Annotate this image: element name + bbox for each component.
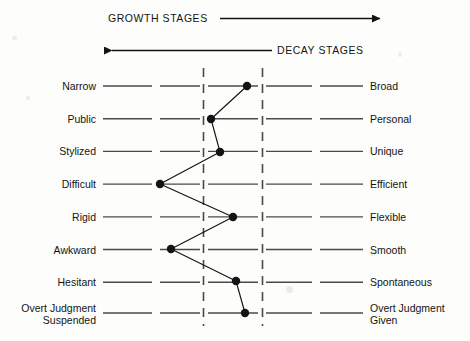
pole-label-line1: Overt Judgment bbox=[21, 302, 96, 314]
pole-label-line1: Hesitant bbox=[57, 276, 96, 288]
pole-label-line1: Awkward bbox=[54, 244, 96, 256]
pole-label-line1: Flexible bbox=[370, 211, 406, 223]
pole-label-line1: Spontaneous bbox=[370, 276, 432, 288]
pole-label-left-7: Overt JudgmentSuspended bbox=[6, 302, 96, 326]
pole-label-line1: Rigid bbox=[72, 211, 96, 223]
pole-label-left-6: Hesitant bbox=[6, 276, 96, 288]
pole-label-right-5: Smooth bbox=[370, 244, 468, 256]
pole-label-line1: Public bbox=[67, 113, 96, 125]
pole-label-line2: Given bbox=[370, 314, 397, 326]
pole-label-line1: Broad bbox=[370, 80, 398, 92]
scan-speck bbox=[286, 286, 293, 293]
pole-label-left-5: Awkward bbox=[6, 244, 96, 256]
pole-label-right-2: Unique bbox=[370, 145, 468, 157]
pole-label-left-2: Stylized bbox=[6, 145, 96, 157]
pole-label-left-3: Difficult bbox=[6, 178, 96, 190]
pole-label-line1: Stylized bbox=[59, 145, 96, 157]
pole-label-left-4: Rigid bbox=[6, 211, 96, 223]
pole-label-line1: Difficult bbox=[62, 178, 96, 190]
pole-label-line1: Efficient bbox=[370, 178, 407, 190]
pole-label-right-6: Spontaneous bbox=[370, 276, 468, 288]
pole-label-line2: Suspended bbox=[43, 314, 96, 326]
pole-label-left-0: Narrow bbox=[6, 80, 96, 92]
pole-label-right-4: Flexible bbox=[370, 211, 468, 223]
growth-stages-label: GROWTH STAGES bbox=[108, 12, 208, 24]
pole-label-right-1: Personal bbox=[370, 113, 468, 125]
pole-label-line1: Unique bbox=[370, 145, 403, 157]
pole-label-right-3: Efficient bbox=[370, 178, 468, 190]
decay-stages-label: DECAY STAGES bbox=[277, 44, 364, 56]
pole-label-line1: Smooth bbox=[370, 244, 406, 256]
chart-canvas: GROWTH STAGES DECAY STAGES NarrowPublicS… bbox=[0, 0, 470, 341]
pole-label-line1: Overt Judgment bbox=[370, 302, 445, 314]
scan-speck bbox=[26, 96, 30, 100]
pole-label-line1: Narrow bbox=[62, 80, 96, 92]
pole-label-right-7: Overt JudgmentGiven bbox=[370, 302, 468, 326]
pole-label-left-1: Public bbox=[6, 113, 96, 125]
pole-label-right-0: Broad bbox=[370, 80, 468, 92]
pole-label-line1: Personal bbox=[370, 113, 411, 125]
scan-speck bbox=[12, 36, 17, 40]
scan-speck bbox=[398, 52, 402, 57]
